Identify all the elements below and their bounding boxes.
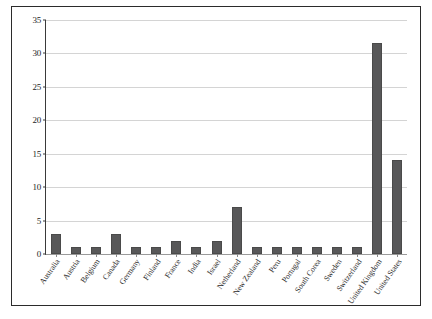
bar[interactable] [312,247,322,254]
x-tick-label: Australia [39,258,62,286]
bar[interactable] [232,207,242,254]
bar-slot [287,20,307,254]
x-label-slot: Germany [125,256,145,312]
bar-slot [207,20,227,254]
bar-slot [106,20,126,254]
x-label-slot: New Zealand [246,256,266,312]
bar-slot [267,20,287,254]
x-tick-label: France [164,258,183,280]
bar[interactable] [332,247,342,254]
bar-slot [86,20,106,254]
bar-slot [146,20,166,254]
x-label-slot: India [186,256,206,312]
bar-slot [367,20,387,254]
y-tick-label: 5 [37,216,41,225]
x-label-slot: France [166,256,186,312]
bar[interactable] [292,247,302,254]
x-label-slot: Australia [45,256,65,312]
bar-slot [227,20,247,254]
bar-slot [126,20,146,254]
x-label-slot: Finland [146,256,166,312]
bar-slot [247,20,267,254]
bar-slot [166,20,186,254]
bar-slot [347,20,367,254]
bar-slot [186,20,206,254]
bar[interactable] [71,247,81,254]
x-tick-label: Peru [268,258,283,274]
bar[interactable] [352,247,362,254]
x-label-slot: Austria [65,256,85,312]
x-tick-label: India [187,258,203,276]
bar[interactable] [171,241,181,254]
x-label-slot: United States [387,256,407,312]
bar[interactable] [151,247,161,254]
bar[interactable] [372,43,382,254]
x-label-slot: Peru [266,256,286,312]
bar-slot [307,20,327,254]
bar[interactable] [131,247,141,254]
y-tick-label: 35 [32,16,41,25]
x-tick-label: Israel [206,258,222,277]
y-tick-label: 10 [32,183,41,192]
bar[interactable] [212,241,222,254]
y-tick-label: 25 [32,82,41,91]
y-tick-label: 15 [32,149,41,158]
chart-frame: 05101520253035 AustraliaAustriaBelgiumCa… [11,6,421,306]
x-tick-label: Finland [142,258,162,282]
y-tick-label: 0 [37,250,41,259]
bar[interactable] [51,234,61,254]
y-tick-label: 20 [32,116,41,125]
gridline [46,254,407,255]
bar[interactable] [252,247,262,254]
bar-slot [46,20,66,254]
bar[interactable] [272,247,282,254]
bar-slot [327,20,347,254]
bar-series [46,20,407,254]
x-label-slot: Belgium [85,256,105,312]
bar[interactable] [392,160,402,254]
bar[interactable] [191,247,201,254]
y-tick-label: 30 [32,49,41,58]
bar-slot [66,20,86,254]
bar[interactable] [111,234,121,254]
x-label-slot: South Corea [306,256,326,312]
bar[interactable] [91,247,101,254]
x-axis-tick-labels: AustraliaAustriaBelgiumCanadaGermanyFinl… [45,256,407,312]
bar-slot [387,20,407,254]
plot-area: 05101520253035 [45,20,407,255]
